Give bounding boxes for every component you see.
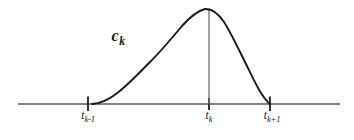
tick-label-t-k-minus-1: tk-1 xyxy=(81,110,95,122)
basis-function-figure: ck tk-1 tk tk+1 xyxy=(0,0,354,140)
curve-label: ck xyxy=(112,28,125,44)
figure-canvas xyxy=(0,0,354,140)
tick-label-t-k-plus-1: tk+1 xyxy=(264,110,281,122)
tick-label-subscript: k+1 xyxy=(267,114,280,124)
tick-label-t-k: tk xyxy=(206,110,213,122)
bell-curve-path xyxy=(92,9,270,104)
curve-label-base: c xyxy=(112,27,119,44)
curve-label-subscript: k xyxy=(119,35,125,47)
tick-label-subscript: k xyxy=(209,114,213,124)
tick-label-subscript: k-1 xyxy=(84,114,94,124)
